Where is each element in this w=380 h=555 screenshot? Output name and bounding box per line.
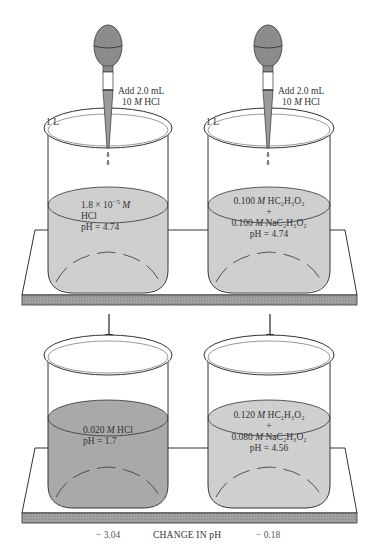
bottom-left-beaker xyxy=(44,335,172,508)
change-in-ph-title: CHANGE IN pH xyxy=(153,530,221,540)
right-dropper-label: Add 2.0 mL 10 M HCl xyxy=(278,86,324,108)
left-volume-label: 1 L xyxy=(46,117,59,128)
diagram-canvas xyxy=(0,0,380,555)
bottom-left-solution-label: 0.020 M HCl pH = 1.7 xyxy=(83,425,133,447)
bottom-right-solution-label: 0.120 M HC₂H₃O₂ + 0.080 M NaC₂H₃O₂ pH = … xyxy=(209,410,329,454)
left-ph-change: − 3.04 xyxy=(96,530,120,540)
top-right-solution-label: 0.100 M HC₂H₃O₂ + 0.100 M NaC₂H₃O₂ pH = … xyxy=(209,196,329,240)
right-volume-label: 1 L xyxy=(206,117,219,128)
right-ph-change: − 0.18 xyxy=(256,530,280,540)
top-left-solution-label: 1.8 × 10−5 M HCl pH = 4.74 xyxy=(81,200,130,233)
left-dropper-label: Add 2.0 mL 10 M HCl xyxy=(118,86,164,108)
